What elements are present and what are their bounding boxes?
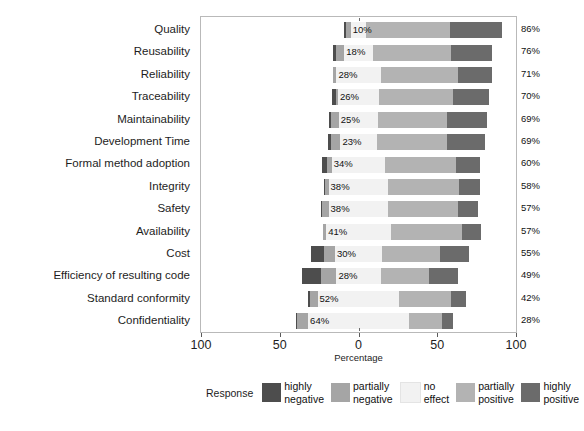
category-label: Maintainability bbox=[0, 108, 196, 130]
category-label: Availability bbox=[0, 220, 196, 242]
positive-total-value: 76% bbox=[521, 40, 573, 62]
legend-label: noeffect bbox=[424, 381, 450, 404]
positive-total-value: 86% bbox=[521, 18, 573, 40]
x-axis-tick bbox=[516, 333, 517, 337]
x-axis-tick-label: 50 bbox=[273, 338, 287, 352]
segment-highly-positive bbox=[447, 112, 486, 128]
neutral-value-label: 34% bbox=[334, 156, 353, 172]
x-axis-tick bbox=[437, 333, 438, 337]
category-label: Efficiency of resulting code bbox=[0, 264, 196, 286]
neutral-value-label: 38% bbox=[331, 179, 350, 195]
segment-highly-positive bbox=[447, 134, 485, 150]
category-label: Cost bbox=[0, 242, 196, 264]
segment-partially-positive bbox=[379, 89, 453, 105]
segment-partially-positive bbox=[381, 67, 458, 83]
category-axis-labels: QualityReusabilityReliabilityTraceabilit… bbox=[0, 18, 196, 331]
legend-title: Response bbox=[206, 387, 253, 399]
positive-total-value: 55% bbox=[521, 242, 573, 264]
neutral-value-label: 26% bbox=[340, 89, 359, 105]
legend-item[interactable]: noeffect bbox=[400, 381, 450, 404]
category-label: Development Time bbox=[0, 130, 196, 152]
legend-swatch bbox=[331, 383, 350, 402]
x-axis-tick-label: 100 bbox=[191, 338, 212, 352]
legend-item[interactable]: highlypositive bbox=[521, 381, 579, 404]
segment-highly-positive bbox=[453, 89, 489, 105]
positive-total-value: 58% bbox=[521, 175, 573, 197]
legend: Response highlynegativepartiallynegative… bbox=[206, 381, 584, 404]
segment-highly-positive bbox=[451, 45, 492, 61]
positive-total-value: 57% bbox=[521, 220, 573, 242]
legend-swatch bbox=[456, 383, 475, 402]
positive-total-labels: 86%76%71%70%69%69%60%58%57%57%55%49%42%2… bbox=[521, 18, 573, 331]
neutral-value-label: 52% bbox=[320, 291, 339, 307]
legend-label: highlypositive bbox=[543, 381, 579, 404]
segment-highly-positive bbox=[456, 157, 480, 173]
segment-highly-positive bbox=[462, 224, 481, 240]
neutral-value-label: 41% bbox=[328, 224, 347, 240]
legend-item[interactable]: partiallypositive bbox=[456, 381, 514, 404]
legend-swatch bbox=[262, 383, 281, 402]
segment-partially-negative bbox=[297, 313, 308, 329]
x-axis-tick-label: 0 bbox=[355, 338, 362, 352]
legend-swatch bbox=[521, 383, 540, 402]
category-label: Traceability bbox=[0, 85, 196, 107]
segment-partially-positive bbox=[366, 22, 449, 38]
segment-partially-positive bbox=[382, 246, 440, 262]
positive-total-value: 60% bbox=[521, 152, 573, 174]
legend-swatch bbox=[400, 382, 421, 403]
neutral-value-label: 18% bbox=[346, 44, 365, 60]
x-axis-tick-label: 50 bbox=[430, 338, 444, 352]
neutral-value-label: 28% bbox=[338, 67, 357, 83]
positive-total-value: 71% bbox=[521, 63, 573, 85]
legend-item[interactable]: partiallynegative bbox=[331, 381, 393, 404]
segment-highly-positive bbox=[440, 246, 468, 262]
category-label: Standard conformity bbox=[0, 287, 196, 309]
segment-highly-positive bbox=[458, 201, 478, 217]
segment-partially-positive bbox=[388, 179, 459, 195]
segment-partially-positive bbox=[409, 313, 442, 329]
neutral-value-label: 64% bbox=[310, 313, 329, 329]
zero-axis-tick bbox=[359, 17, 360, 332]
segment-highly-positive bbox=[450, 22, 502, 38]
segment-partially-negative bbox=[336, 45, 344, 61]
segment-partially-negative bbox=[331, 134, 340, 150]
legend-label: partiallypositive bbox=[478, 381, 514, 404]
segment-partially-positive bbox=[381, 268, 430, 284]
segment-partially-positive bbox=[388, 201, 457, 217]
category-label: Safety bbox=[0, 197, 196, 219]
segment-partially-positive bbox=[373, 45, 452, 61]
positive-total-value: 57% bbox=[521, 197, 573, 219]
segment-partially-positive bbox=[378, 112, 447, 128]
segment-highly-positive bbox=[458, 67, 493, 83]
segment-highly-negative bbox=[302, 268, 321, 284]
segment-partially-positive bbox=[399, 291, 451, 307]
legend-label: highlynegative bbox=[284, 381, 324, 404]
segment-highly-positive bbox=[442, 313, 453, 329]
segment-partially-positive bbox=[391, 224, 462, 240]
positive-total-value: 42% bbox=[521, 287, 573, 309]
segment-partially-negative bbox=[310, 291, 318, 307]
neutral-value-label: 30% bbox=[337, 246, 356, 262]
legend-item[interactable]: highlynegative bbox=[262, 381, 324, 404]
segment-partially-positive bbox=[377, 134, 448, 150]
legend-items: highlynegativepartiallynegativenoeffectp… bbox=[262, 381, 584, 404]
x-axis-tick bbox=[201, 333, 202, 337]
category-label: Integrity bbox=[0, 175, 196, 197]
segment-partially-negative bbox=[321, 268, 337, 284]
positive-total-value: 70% bbox=[521, 85, 573, 107]
positive-total-value: 69% bbox=[521, 108, 573, 130]
segment-highly-positive bbox=[429, 268, 457, 284]
neutral-value-label: 28% bbox=[338, 268, 357, 284]
segment-highly-negative bbox=[311, 246, 324, 262]
neutral-value-label: 25% bbox=[341, 112, 360, 128]
category-label: Quality bbox=[0, 18, 196, 40]
x-axis-title: Percentage bbox=[200, 352, 517, 363]
x-axis-tick bbox=[280, 333, 281, 337]
neutral-value-label: 10% bbox=[353, 22, 372, 38]
segment-highly-positive bbox=[459, 179, 479, 195]
segment-partially-negative bbox=[324, 246, 335, 262]
segment-partially-negative bbox=[331, 112, 339, 128]
category-label: Reliability bbox=[0, 63, 196, 85]
positive-total-value: 69% bbox=[521, 130, 573, 152]
